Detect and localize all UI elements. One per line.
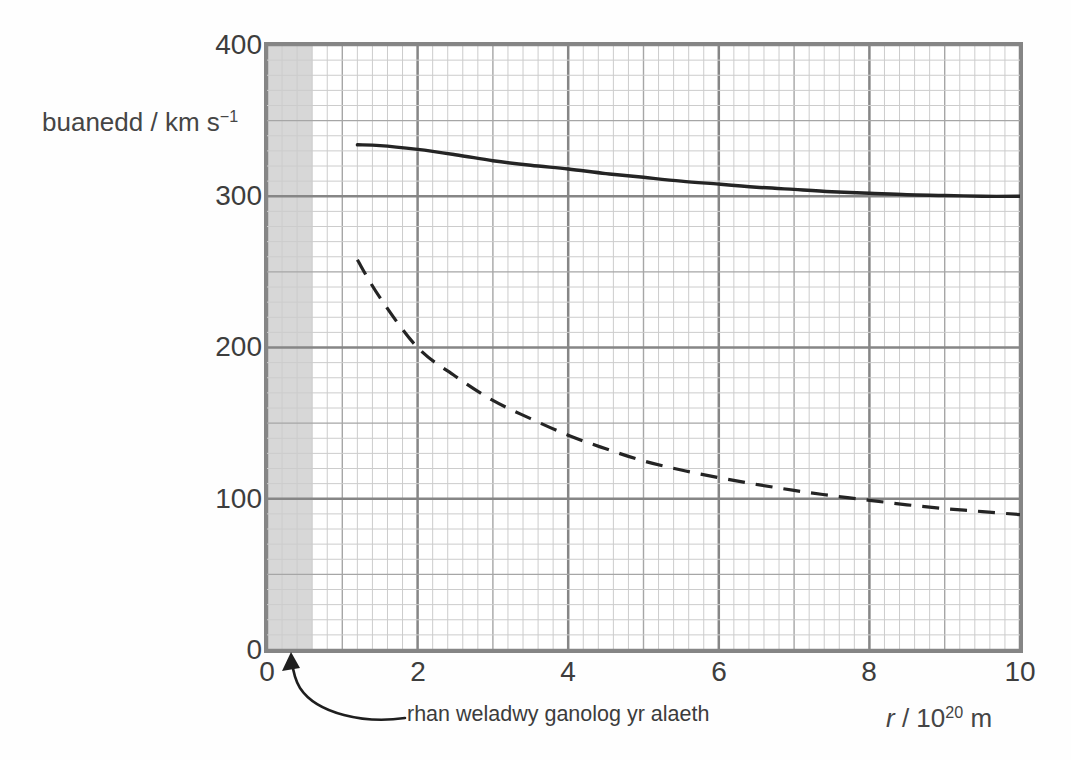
rotation-curve-figure: buanedd / km s−1 400 300 200 100 0 0 2 4…	[0, 0, 1071, 760]
y-tick-label: 300	[162, 182, 262, 210]
x-axis-label: r / 1020 m	[886, 697, 992, 733]
y-axis-label-text: buanedd / km s	[42, 107, 220, 137]
x-axis-separator: / 10	[895, 703, 946, 733]
page: { "chart_data": { "type": "line", "title…	[0, 0, 1071, 760]
chart-canvas	[267, 45, 1020, 650]
arrowhead-icon	[282, 652, 300, 671]
y-axis-label: buanedd / km s−1	[42, 101, 238, 137]
y-tick-label: 400	[162, 31, 262, 59]
y-tick-label: 100	[162, 485, 262, 513]
annotation-arrow	[255, 640, 425, 740]
y-axis-label-exponent: −1	[220, 107, 238, 125]
x-axis-variable: r	[886, 703, 895, 733]
x-axis-unit: m	[963, 703, 992, 733]
x-axis-exponent: 20	[945, 703, 963, 721]
x-tick-label: 10	[980, 658, 1060, 686]
plot-area	[264, 42, 1023, 653]
x-tick-label: 4	[528, 658, 608, 686]
x-tick-label: 6	[679, 658, 759, 686]
x-tick-label: 8	[829, 658, 909, 686]
y-tick-label: 200	[162, 333, 262, 361]
region-annotation: rhan weladwy ganolog yr alaeth	[407, 701, 709, 727]
